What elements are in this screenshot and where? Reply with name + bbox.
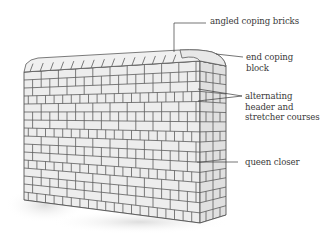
label-line: stretcher courses [245,112,320,123]
label-alternating-courses: alternating header and stretcher courses [245,91,320,123]
label-line: queen closer [245,157,300,168]
label-end-coping-block: end coping block [246,52,293,73]
label-line: block [246,63,293,74]
label-line: header and [245,102,320,113]
brick-wall-illustration [0,0,331,248]
front-face [24,61,200,223]
label-queen-closer: queen closer [245,157,300,168]
label-line: angled coping bricks [210,16,299,27]
label-line: end coping [246,52,293,63]
end-face [200,61,226,223]
label-line: alternating [245,91,320,102]
label-angled-coping-bricks: angled coping bricks [210,16,299,27]
